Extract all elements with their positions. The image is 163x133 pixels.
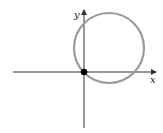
coordinate-diagram: y x [0, 0, 163, 133]
x-axis-label: x [150, 74, 156, 85]
origin-point [81, 69, 88, 76]
y-axis-label: y [73, 9, 80, 20]
